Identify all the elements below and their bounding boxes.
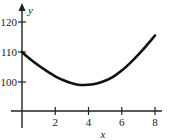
chart: 2468 100110120 x y: [0, 0, 169, 140]
axes: [11, 3, 162, 128]
data-curve: [22, 36, 155, 86]
x-tick-label: 4: [86, 116, 92, 128]
y-axis-label: y: [27, 4, 33, 16]
x-tick-label: 2: [53, 116, 59, 128]
y-axis-arrow-icon: [19, 3, 26, 11]
y-tick-label: 100: [1, 76, 18, 88]
x-tick-label: 6: [119, 116, 125, 128]
y-tick-label: 120: [1, 16, 18, 28]
x-tick-label: 8: [152, 116, 158, 128]
x-axis-label: x: [100, 128, 106, 140]
x-ticks: 2468: [53, 107, 159, 128]
y-tick-label: 110: [1, 46, 18, 58]
